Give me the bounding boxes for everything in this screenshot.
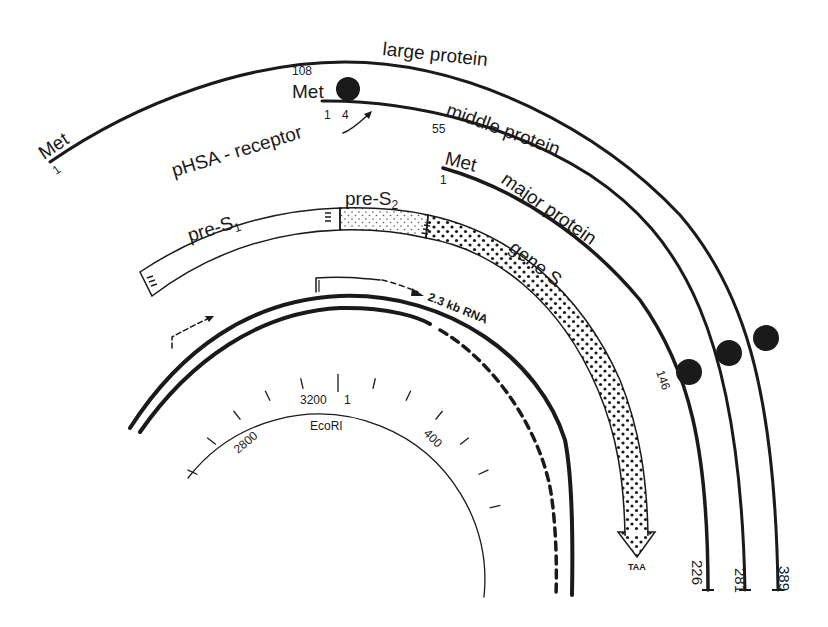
major-protein-start-index: 1 <box>440 173 447 187</box>
stop-codon-label: TAA <box>628 562 646 572</box>
scale-tick <box>301 378 303 389</box>
scale-tick <box>490 505 501 507</box>
glycosylation-dot-major <box>676 359 702 385</box>
glycosylation-dot-middle-start <box>336 77 360 101</box>
scale-tick-2800: 2800 <box>231 428 261 456</box>
pre-s1-region <box>140 208 340 296</box>
scale-tick <box>373 378 375 389</box>
scale-tick <box>207 438 216 445</box>
scale-tick <box>234 411 241 420</box>
glycosylation-dot-middle <box>716 340 742 366</box>
scale-tick-3200: 3200 <box>300 393 327 407</box>
glycosylation-dot-large <box>753 325 779 351</box>
pre-s2-region <box>340 208 428 238</box>
major-protein-met-label: Met <box>443 148 480 176</box>
scale-tick <box>436 411 443 420</box>
middle-protein-line <box>322 101 745 590</box>
large-protein-met-label: Met <box>34 128 73 164</box>
gene-s-arrow-head-bg <box>626 530 647 536</box>
major-protein-end-index: 226 <box>689 560 706 585</box>
middle-upper-index: 108 <box>292 64 312 78</box>
middle-index-1: 1 <box>324 108 331 122</box>
svg-text:pre-S2: pre-S2 <box>345 188 398 212</box>
dna-outer-strand <box>130 296 572 595</box>
scale-tick <box>406 391 411 401</box>
ecori-site-label: EcoRI <box>310 419 343 433</box>
rna-start-bracket <box>316 277 380 292</box>
scale-tick-400: 400 <box>421 426 445 450</box>
middle-protein-internal-index: 55 <box>432 122 446 136</box>
glycosylation-index-146: 146 <box>653 368 673 392</box>
scale-tick-1: 1 <box>344 393 351 407</box>
middle-index-4: 4 <box>342 108 349 122</box>
middle-protein-met-label: Met <box>292 81 324 102</box>
large-protein-start-index: 1 <box>50 162 64 178</box>
dna-inner-strand-solid <box>140 308 430 432</box>
scale-tick <box>265 391 270 401</box>
pre-s2-label: pre-S2 <box>345 188 398 212</box>
scale-tick <box>478 470 488 475</box>
rna-arrow-head <box>411 288 424 296</box>
major-protein-label: major protein <box>498 168 601 249</box>
hbv-genome-map: Met 1 large protein 108 Met 1 4 middle p… <box>0 0 828 627</box>
large-protein-end-index: 389 <box>776 566 793 591</box>
receptor-label: pHSA - receptor <box>169 121 305 181</box>
scale-tick <box>460 438 469 445</box>
middle-protein-end-index: 281 <box>732 568 749 593</box>
large-protein-line <box>50 62 778 590</box>
dna-inner-strand-dashed <box>440 330 556 595</box>
scale-tick <box>188 470 198 475</box>
